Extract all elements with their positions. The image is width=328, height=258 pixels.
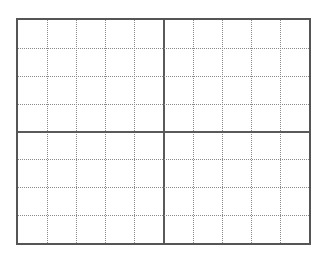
grid-horizontal-line — [18, 215, 309, 216]
center-horizontal-line — [18, 131, 309, 133]
graticule-grid — [16, 18, 311, 245]
grid-horizontal-line — [18, 187, 309, 188]
grid-horizontal-line — [18, 48, 309, 49]
grid-horizontal-line — [18, 159, 309, 160]
grid-horizontal-line — [18, 76, 309, 77]
grid-horizontal-line — [18, 104, 309, 105]
